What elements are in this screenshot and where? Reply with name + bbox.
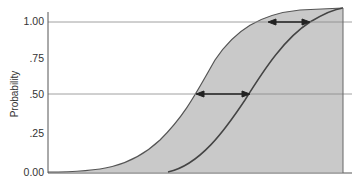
y-axis-label: Probability (9, 71, 20, 118)
ytick-1.00: 1.00 (24, 15, 45, 27)
ytick-0.25: .25 (29, 127, 44, 139)
ytick-0.00: 0.00 (24, 166, 45, 178)
shaded-area (48, 8, 343, 172)
probability-chart: 1.00 .75 .50 .25 0.00 Probability (0, 0, 364, 187)
ytick-0.50: .50 (29, 88, 44, 100)
ytick-0.75: .75 (29, 52, 44, 64)
